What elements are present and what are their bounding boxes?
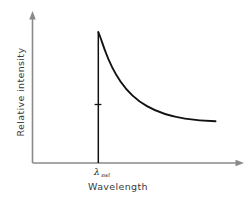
xray-spectrum-figure: λ swl Wavelength Relative intensity — [0, 0, 252, 197]
plot-background — [0, 0, 252, 197]
spectrum-plot: λ swl Wavelength Relative intensity — [0, 0, 252, 197]
x-axis-title: Wavelength — [88, 181, 148, 192]
lambda-symbol-label: λ — [93, 167, 100, 177]
y-axis-title: Relative intensity — [15, 48, 26, 137]
lambda-subscript-label: swl — [101, 172, 110, 178]
